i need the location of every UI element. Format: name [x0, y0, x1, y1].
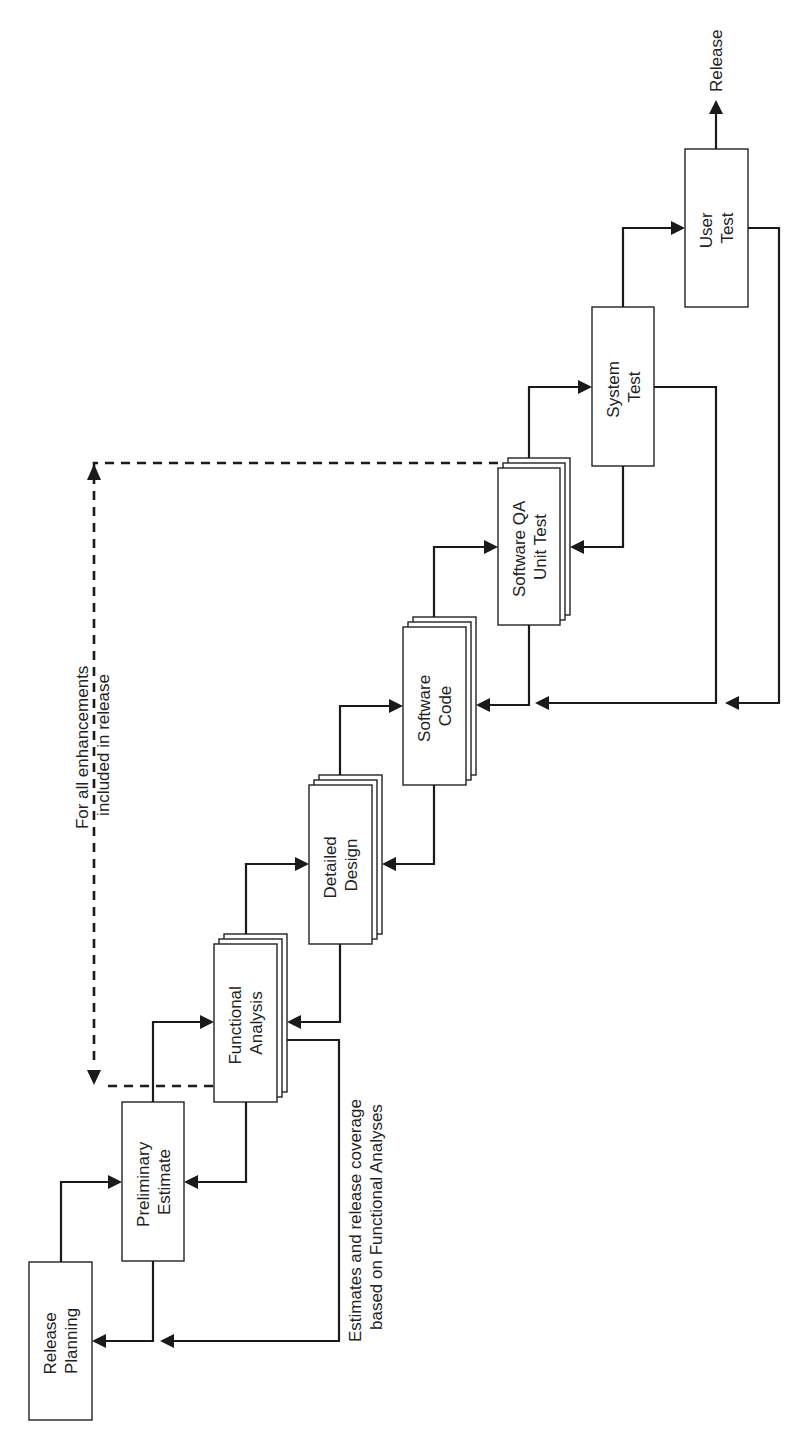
preliminary-estimate-line1: Preliminary — [134, 1141, 153, 1227]
user-test-line1: User — [697, 212, 716, 248]
stage-user-test — [685, 149, 748, 307]
stage-release-planning — [29, 1262, 92, 1420]
functional-analysis-line2: Analysis — [247, 991, 266, 1054]
forward-connectors — [61, 100, 723, 1262]
feedback-connectors — [92, 228, 779, 1348]
svg-text:Estimates and release coverage: Estimates and release coverage based on … — [346, 1094, 386, 1342]
release-output-label: Release — [707, 30, 726, 92]
enhancements-note-line2: included in release — [94, 674, 113, 816]
enhancements-note-line1: For all enhancements — [73, 666, 92, 829]
software-code-line1: Software — [415, 675, 434, 742]
arrow-up-icon — [87, 464, 101, 480]
detailed-design-line2: Design — [342, 839, 361, 892]
software-qa-line2: Unit Test — [531, 514, 550, 580]
stage-preliminary-estimate — [122, 1102, 184, 1261]
software-code-line2: Code — [436, 686, 455, 727]
release-planning-line2: Planning — [62, 1308, 81, 1374]
estimates-note-line1: Estimates and release coverage — [346, 1099, 365, 1342]
release-arrow-icon — [709, 100, 723, 114]
stage-system-test — [592, 307, 654, 466]
software-qa-line1: Software QA — [510, 500, 529, 597]
functional-analysis-line1: Functional — [226, 986, 245, 1064]
arrow-down-icon — [87, 1070, 101, 1085]
system-test-line2: Test — [625, 371, 644, 402]
waterfall-diagram: Release Planning Preliminary Estimate Fu… — [0, 0, 802, 1453]
release-planning-line1: Release — [41, 1312, 60, 1374]
estimates-note-line2: based on Functional Analyses — [367, 1104, 386, 1330]
preliminary-estimate-line2: Estimate — [155, 1149, 174, 1215]
user-test-line2: Test — [718, 212, 737, 243]
system-test-line1: System — [604, 361, 623, 418]
detailed-design-line1: Detailed — [321, 836, 340, 898]
